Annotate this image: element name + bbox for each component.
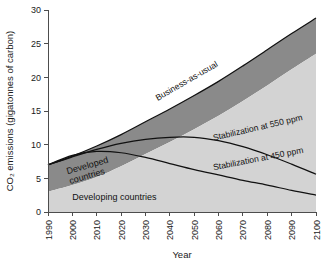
y-tick-label: 10 [31, 140, 41, 150]
y-tick-label: 5 [36, 174, 41, 184]
x-tick-label: 2060 [214, 220, 224, 240]
x-tick-label: 1990 [44, 220, 54, 240]
x-tick-label: 2090 [287, 220, 297, 240]
y-tick-label: 15 [31, 106, 41, 116]
x-tick-label: 2100 [312, 220, 322, 240]
x-tick-label: 2050 [190, 220, 200, 240]
chart-canvas: 051015202530 199020002010202020302040205… [0, 0, 331, 268]
y-axis-title: CO₂ emissions (gigatonnes of carbon) [4, 31, 15, 192]
annotation-developing-countries: Developing countries [72, 192, 157, 202]
x-tick-label: 2040 [165, 220, 175, 240]
x-tick-label: 2020 [117, 220, 127, 240]
x-tick-label: 2080 [263, 220, 273, 240]
y-tick-label: 30 [31, 5, 41, 15]
x-tick-label: 2070 [238, 220, 248, 240]
y-tick-label: 25 [31, 39, 41, 49]
y-tick-label: 20 [31, 73, 41, 83]
x-tick-label: 2000 [68, 220, 78, 240]
x-tick-label: 2030 [141, 220, 151, 240]
x-axis-ticks: 1990200020102020203020402050206020702080… [44, 212, 322, 240]
x-axis-title: Year [172, 249, 191, 260]
x-tick-label: 2010 [92, 220, 102, 240]
y-axis-ticks: 051015202530 [31, 5, 48, 217]
co2-emissions-chart: 051015202530 199020002010202020302040205… [0, 0, 331, 268]
y-tick-label: 0 [36, 207, 41, 217]
